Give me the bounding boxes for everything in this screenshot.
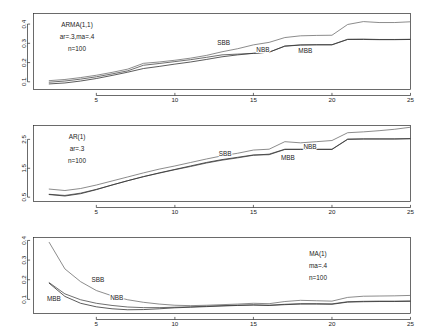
series-label-mbb: MBB — [298, 47, 312, 54]
series-label-mbb: MBB — [47, 295, 61, 302]
panel-annotation-line: ar=.3,ma=.4 — [60, 33, 95, 40]
series-label-sbb: SBB — [217, 39, 230, 46]
series-label-nbb: NBB — [110, 294, 123, 301]
x-axis-tick-label: 20 — [329, 208, 336, 215]
y-axis-tick-label: 0.1 — [20, 77, 27, 86]
series-label-sbb: SBB — [92, 276, 105, 283]
x-axis-tick-label: 20 — [329, 320, 336, 327]
x-axis-tick-label: 5 — [95, 208, 99, 215]
plot-svg: 0.10.20.30.4510152025SBBSBBNBBNBBMBBMBBM… — [0, 224, 421, 336]
x-axis-tick-label: 15 — [250, 96, 257, 103]
series-label-nbb: NBB — [303, 143, 316, 150]
panel-annotation-line: ARMA(1,1) — [61, 21, 93, 29]
series-label-sbb: SBB — [219, 150, 232, 157]
x-axis-tick-label: 5 — [95, 320, 99, 327]
x-axis-tick-label: 25 — [407, 96, 414, 103]
y-axis-tick-label: 0.2 — [20, 58, 27, 67]
x-axis-tick-label: 15 — [250, 320, 257, 327]
panel-annotation-line: AR(1) — [69, 133, 86, 141]
panel-annotation-line: MA(1) — [309, 250, 326, 258]
series-line-mbb — [49, 139, 410, 196]
x-axis-tick-label: 20 — [329, 96, 336, 103]
series-label-mbb: MBB — [281, 154, 295, 161]
y-axis-tick-label: 0.4 — [20, 19, 27, 28]
chart-panel-ma: 0.10.20.30.4510152025SBBSBBNBBNBBMBBMBBM… — [0, 224, 421, 336]
panel-annotation-line: n=100 — [309, 274, 327, 281]
curves-group — [49, 22, 410, 84]
x-axis-tick-label: 10 — [171, 208, 178, 215]
y-axis-tick-label: 2.5 — [20, 135, 27, 144]
panel-annotation-line: n=100 — [68, 157, 86, 164]
chart-panel-ar: 0.51.52.5510152025SBBSBBNBBNBBMBBMBBAR(1… — [0, 112, 421, 224]
plot-svg: 0.10.20.30.4510152025SBBSBBNBBNBBMBBMBBA… — [0, 0, 421, 112]
x-axis-tick-label: 25 — [407, 208, 414, 215]
y-axis-tick-label: 0.2 — [20, 275, 27, 284]
plot-svg: 0.51.52.5510152025SBBSBBNBBNBBMBBMBBAR(1… — [0, 112, 421, 224]
y-axis-tick-label: 0.3 — [20, 38, 27, 47]
plot-frame — [34, 126, 411, 202]
series-line-nbb — [49, 283, 410, 308]
multi-panel-figure: 0.10.20.30.4510152025SBBSBBNBBNBBMBBMBBA… — [0, 0, 421, 336]
y-axis-tick-label: 0.3 — [20, 255, 27, 264]
x-axis-tick-label: 25 — [407, 320, 414, 327]
y-axis-tick-label: 0.5 — [20, 192, 27, 201]
x-axis-tick-label: 10 — [171, 96, 178, 103]
panel-annotation-line: ma=.4 — [309, 262, 327, 269]
y-axis-tick-label: 0.1 — [20, 295, 27, 304]
curves-group — [49, 127, 410, 196]
x-axis-tick-label: 5 — [95, 96, 99, 103]
series-label-nbb: NBB — [256, 46, 269, 53]
x-axis-tick-label: 10 — [171, 320, 178, 327]
y-axis-tick-label: 1.5 — [20, 163, 27, 172]
y-axis-tick-label: 0.4 — [20, 236, 27, 245]
series-line-sbb — [49, 22, 410, 81]
series-line-nbb — [49, 139, 410, 196]
x-axis-tick-label: 15 — [250, 208, 257, 215]
panel-annotation-line: n=100 — [68, 45, 86, 52]
chart-panel-arma: 0.10.20.30.4510152025SBBSBBNBBNBBMBBMBBA… — [0, 0, 421, 112]
panel-annotation-line: ar=.3 — [70, 145, 85, 152]
series-line-sbb — [49, 242, 410, 305]
